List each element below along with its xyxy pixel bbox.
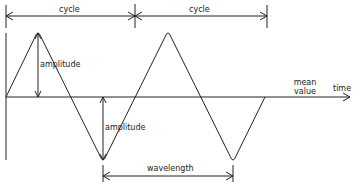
wavelength-label: wavelength xyxy=(147,164,194,173)
cycle-2-label: cycle xyxy=(189,5,210,14)
mean-value-label-line1: mean xyxy=(290,78,320,87)
mean-value-label-line2: value xyxy=(290,87,320,96)
amplitude-2-label: amplitude xyxy=(105,123,145,132)
cycle-1-label: cycle xyxy=(59,5,80,14)
time-label: time xyxy=(333,84,351,93)
amplitude-1-label: amplitude xyxy=(40,60,80,69)
